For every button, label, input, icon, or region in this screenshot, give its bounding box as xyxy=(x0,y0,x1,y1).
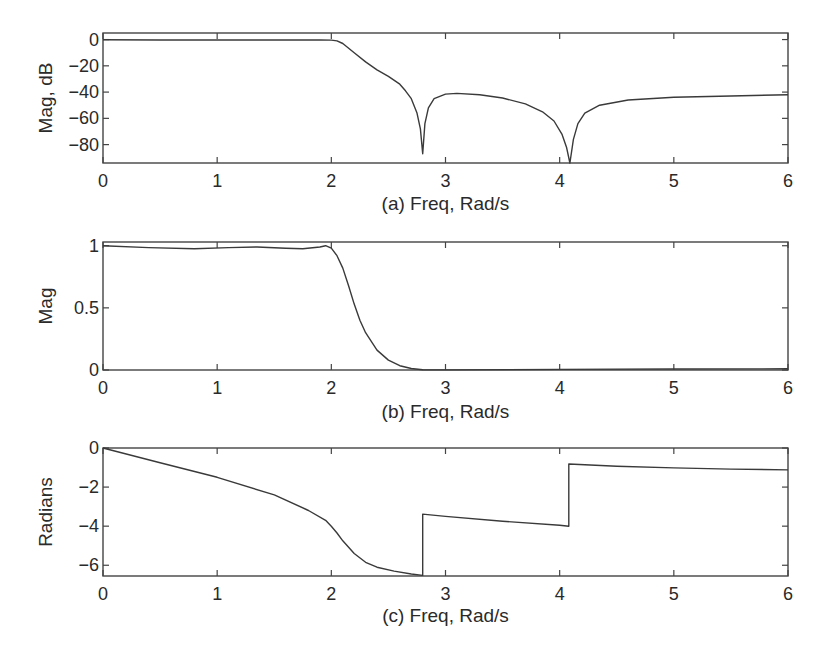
y-axis-label: Mag, dB xyxy=(35,63,56,134)
x-tick-label: 0 xyxy=(98,171,108,191)
y-axis-label: Radians xyxy=(35,477,56,547)
y-tick-label: −80 xyxy=(68,135,99,155)
x-tick-label: 2 xyxy=(326,584,336,604)
figure: 01234560−20−40−60−80(a) Freq, Rad/sMag, … xyxy=(0,0,825,663)
x-axis-label: (b) Freq, Rad/s xyxy=(382,401,510,422)
x-tick-label: 2 xyxy=(326,171,336,191)
y-tick-label: −6 xyxy=(78,555,99,575)
y-tick-label: −40 xyxy=(68,82,99,102)
y-tick-label: −4 xyxy=(78,516,99,536)
x-axis-label: (a) Freq, Rad/s xyxy=(382,193,510,214)
x-tick-label: 6 xyxy=(783,171,793,191)
plot-frame xyxy=(103,448,788,576)
panel-b-magnitude-linear: 012345600.51(b) Freq, Rad/sMag xyxy=(35,236,793,422)
x-tick-label: 5 xyxy=(669,378,679,398)
data-curve xyxy=(103,448,788,575)
y-tick-label: −20 xyxy=(68,56,99,76)
plot-frame xyxy=(103,242,788,370)
x-tick-label: 4 xyxy=(555,584,565,604)
panel-c-phase: 01234560−2−4−6(c) Freq, Rad/sRadians xyxy=(35,438,793,626)
y-tick-label: 0 xyxy=(89,30,99,50)
panel-a-magnitude-db: 01234560−20−40−60−80(a) Freq, Rad/sMag, … xyxy=(35,30,793,214)
x-tick-label: 2 xyxy=(326,378,336,398)
x-tick-label: 4 xyxy=(555,171,565,191)
data-curve xyxy=(103,40,788,163)
y-tick-label: −60 xyxy=(68,108,99,128)
x-tick-label: 4 xyxy=(555,378,565,398)
x-tick-label: 1 xyxy=(212,584,222,604)
y-tick-label: 0 xyxy=(89,360,99,380)
y-tick-label: 0 xyxy=(89,438,99,458)
y-axis-label: Mag xyxy=(35,288,56,325)
plot-frame xyxy=(103,33,788,163)
x-tick-label: 1 xyxy=(212,378,222,398)
x-tick-label: 0 xyxy=(98,378,108,398)
x-tick-label: 5 xyxy=(669,171,679,191)
x-tick-label: 3 xyxy=(440,171,450,191)
x-tick-label: 0 xyxy=(98,584,108,604)
x-tick-label: 3 xyxy=(440,584,450,604)
y-tick-label: −2 xyxy=(78,477,99,497)
x-tick-label: 3 xyxy=(440,378,450,398)
data-curve xyxy=(103,246,788,370)
x-tick-label: 5 xyxy=(669,584,679,604)
y-tick-label: 0.5 xyxy=(74,298,99,318)
x-tick-label: 6 xyxy=(783,378,793,398)
x-axis-label: (c) Freq, Rad/s xyxy=(382,605,509,626)
x-tick-label: 1 xyxy=(212,171,222,191)
x-tick-label: 6 xyxy=(783,584,793,604)
y-tick-label: 1 xyxy=(89,236,99,256)
